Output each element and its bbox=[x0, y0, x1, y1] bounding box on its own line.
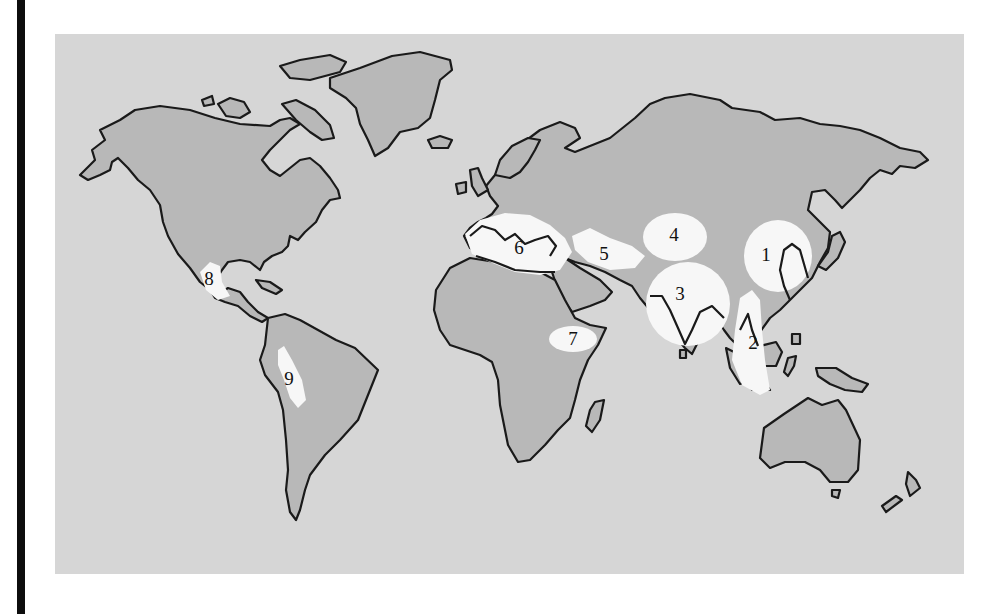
land-new-guinea bbox=[816, 368, 868, 392]
land-tasmania bbox=[832, 490, 840, 498]
land-sulawesi bbox=[784, 356, 796, 376]
land-ireland bbox=[456, 182, 466, 194]
center-label-9: 9 bbox=[284, 368, 294, 389]
world-map: 1 2 3 4 5 6 7 8 9 bbox=[0, 0, 998, 614]
center-label-3: 3 bbox=[675, 283, 685, 304]
land-philippines bbox=[792, 334, 800, 344]
center-region-3 bbox=[646, 262, 730, 346]
center-label-2: 2 bbox=[748, 332, 758, 353]
land-australia bbox=[760, 398, 860, 482]
land-new-zealand-north bbox=[906, 472, 920, 496]
land-madagascar bbox=[586, 400, 604, 432]
center-label-7: 7 bbox=[568, 328, 578, 349]
center-label-6: 6 bbox=[514, 237, 524, 258]
land-arctic-islet bbox=[202, 96, 214, 106]
center-label-8: 8 bbox=[204, 268, 214, 289]
land-victoria-island bbox=[218, 98, 250, 118]
center-label-4: 4 bbox=[669, 224, 679, 245]
land-sri-lanka bbox=[680, 350, 686, 358]
land-new-zealand-south bbox=[882, 496, 902, 512]
land-cuba bbox=[256, 280, 282, 294]
center-label-1: 1 bbox=[761, 244, 771, 265]
land-south-america bbox=[260, 314, 378, 520]
land-britain bbox=[470, 168, 488, 196]
center-label-5: 5 bbox=[599, 243, 609, 264]
land-iceland bbox=[428, 136, 452, 148]
